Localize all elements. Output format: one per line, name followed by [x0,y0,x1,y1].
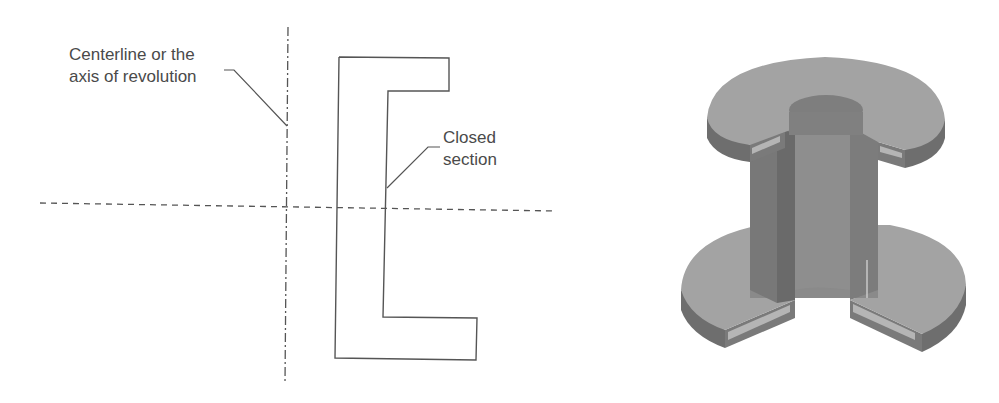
centerline-leader [224,70,287,126]
closed-section-leader [387,147,440,188]
horizontal-reference-line [40,203,556,211]
centerline-label-line-2: axis of revolution [69,66,197,88]
diagram-stage: Centerline or the axis of revolution Clo… [0,0,999,403]
revolved-solid-3d [681,57,966,352]
closed-section-label: Closed section [443,127,497,171]
closed-section-label-line-2: section [443,149,497,171]
closed-section-label-line-1: Closed [443,127,497,149]
centerline-label: Centerline or the axis of revolution [69,44,197,88]
axis-of-revolution-line [285,27,288,383]
centerline-label-line-1: Centerline or the [69,44,197,66]
